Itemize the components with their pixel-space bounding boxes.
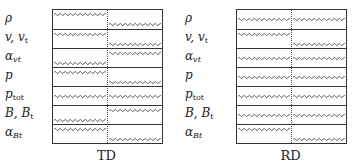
row-label: B, Bt [185,104,213,123]
row-label: αvt [5,47,21,66]
diagram-row [53,48,162,67]
wave-left [238,75,292,80]
row-label-subscript: vt [193,55,201,64]
wave-left [238,94,292,99]
wave-right [109,108,163,113]
row-label-subscript: vt [13,55,21,64]
row-label: αBt [5,123,22,142]
row-label-main: v, v [5,30,25,44]
row-label: p [5,66,13,85]
wave-right [109,80,163,85]
wave-right [109,94,163,99]
wave-left [238,113,292,118]
wave-left [238,127,292,132]
row-label: v, vt [5,28,28,47]
diagram-row [237,67,346,86]
row-label-main: ρ [5,11,12,25]
row-label: B, Bt [5,104,33,123]
diagram-row [53,29,162,48]
diagram-row [237,48,346,67]
wave-left [54,127,108,132]
row-label-main: α [5,49,13,63]
wave-right [109,51,163,56]
diagram-row [237,10,346,29]
row-label: αBt [185,123,202,142]
wave-right [293,75,347,80]
row-label-main: B, B [5,106,30,120]
row-label-subscript: t [30,112,33,121]
row-label-main: ρ [185,11,192,25]
row-label: v, vt [185,28,208,47]
row-label-subscript: t [210,112,213,121]
row-label-subscript: Bt [193,131,202,140]
panel-rd: ρv, vtαvtpptotB, BtαBt RD [180,0,357,165]
diagram-row [53,86,162,105]
row-label: αvt [185,47,201,66]
wave-right [293,94,347,99]
wave-left [238,32,292,37]
row-label-main: p [5,68,13,82]
wave-left [54,61,108,66]
wave-right [109,137,163,142]
wave-left [238,56,292,61]
wave-right [293,42,347,47]
row-label: p [185,66,193,85]
row-label-subscript: t [25,36,28,45]
wave-left [54,32,108,37]
wave-right [293,56,347,61]
wave-left [54,12,108,17]
row-label: ptot [5,85,24,104]
wave-right [109,42,163,47]
diagram-row [53,10,162,29]
diagram-row [53,105,162,124]
wave-left [54,70,108,75]
diagram-box [52,9,163,144]
row-label-main: p [5,87,13,101]
diagram-row [237,86,346,105]
row-label-main: p [185,68,193,82]
diagram-row [237,124,346,143]
wave-left [238,17,292,22]
row-label-main: α [185,125,193,139]
wave-left [54,94,108,99]
row-label-main: v, v [185,30,205,44]
diagram-row [53,124,162,143]
row-label-main: α [185,49,193,63]
wave-right [293,17,347,22]
wave-right [293,137,347,142]
row-label: ρ [5,9,12,28]
row-label-subscript: tot [193,93,204,102]
row-label: ptot [185,85,204,104]
wave-left [54,118,108,123]
row-label-subscript: t [205,36,208,45]
row-label-main: α [5,125,13,139]
row-label-main: p [185,87,193,101]
diagram-box [236,9,347,144]
row-label-subscript: Bt [13,131,22,140]
diagram-row [237,105,346,124]
wave-right [109,22,163,27]
panel-td: ρv, vtαvtpptotB, BtαBt TD [0,0,178,165]
row-label-main: B, B [185,106,210,120]
panel-caption: RD [236,148,345,163]
diagram-row [53,67,162,86]
wave-right [293,113,347,118]
diagram-row [237,29,346,48]
row-label: ρ [185,9,192,28]
row-label-subscript: tot [13,93,24,102]
panel-caption: TD [52,148,161,163]
